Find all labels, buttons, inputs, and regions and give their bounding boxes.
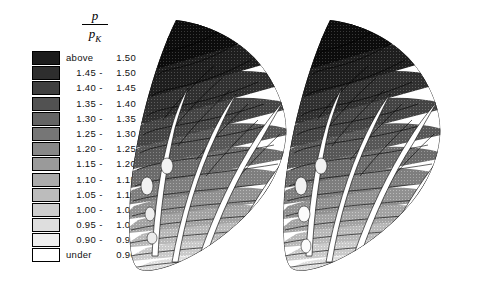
figure-canvas: p pK above1.501.45-1.501.40-1.451.35-1.4…: [0, 0, 493, 294]
right-cascade-panel: [274, 0, 468, 285]
cascade-contour-plots: [0, 0, 493, 294]
